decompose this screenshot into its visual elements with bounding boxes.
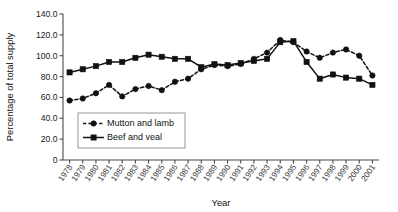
x-axis-tick-label: 2001 bbox=[359, 163, 377, 183]
data-point-marker bbox=[199, 65, 204, 70]
data-point-marker bbox=[93, 91, 98, 96]
data-point-marker bbox=[133, 55, 138, 60]
data-point-marker bbox=[278, 40, 283, 45]
data-point-marker bbox=[80, 96, 85, 101]
y-axis-tick-label: 20.0 bbox=[41, 134, 58, 144]
data-point-marker bbox=[106, 82, 111, 87]
y-axis-tick-label: 140.0 bbox=[36, 9, 58, 19]
data-point-marker bbox=[357, 53, 362, 58]
x-axis-title: Year bbox=[212, 197, 231, 208]
data-point-marker bbox=[172, 56, 177, 61]
series-1 bbox=[67, 37, 375, 103]
data-point-marker bbox=[159, 87, 164, 92]
y-axis-tick-label: 40.0 bbox=[41, 113, 58, 123]
data-point-marker bbox=[291, 39, 296, 44]
data-point-marker bbox=[330, 72, 335, 77]
data-point-marker bbox=[317, 55, 322, 60]
data-point-marker bbox=[238, 60, 243, 65]
data-point-marker bbox=[133, 86, 138, 91]
data-point-marker bbox=[185, 76, 190, 81]
data-point-marker bbox=[304, 49, 309, 54]
legend: Mutton and lambBeef and veal bbox=[78, 113, 185, 148]
y-axis-tick-label: 0 bbox=[53, 155, 58, 165]
y-axis-tick-label: 80.0 bbox=[41, 72, 58, 82]
data-point-marker bbox=[343, 47, 348, 52]
chart-canvas: 020.040.060.080.0100.0120.0140.0Percenta… bbox=[0, 0, 398, 212]
data-point-marker bbox=[80, 67, 85, 72]
data-point-marker bbox=[146, 83, 151, 88]
series-line bbox=[70, 41, 373, 85]
data-point-marker bbox=[370, 82, 375, 87]
legend-label: Mutton and lamb bbox=[107, 118, 174, 128]
legend-label: Beef and veal bbox=[107, 132, 162, 142]
data-point-marker bbox=[106, 59, 111, 64]
line-chart: 020.040.060.080.0100.0120.0140.0Percenta… bbox=[0, 0, 398, 212]
data-point-marker bbox=[120, 59, 125, 64]
data-point-marker bbox=[120, 94, 125, 99]
series-line bbox=[70, 40, 373, 100]
y-axis-tick-label: 60.0 bbox=[41, 92, 58, 102]
y-axis-tick-label: 120.0 bbox=[36, 30, 58, 40]
data-point-marker bbox=[172, 79, 177, 84]
data-point-marker bbox=[225, 63, 230, 68]
data-point-marker bbox=[159, 54, 164, 59]
data-point-marker bbox=[67, 70, 72, 75]
data-point-marker bbox=[317, 76, 322, 81]
data-point-marker bbox=[146, 52, 151, 57]
data-point-marker bbox=[264, 50, 269, 55]
data-point-marker bbox=[264, 56, 269, 61]
data-point-marker bbox=[67, 98, 72, 103]
data-point-marker bbox=[304, 59, 309, 64]
series-2 bbox=[67, 39, 375, 88]
data-point-marker bbox=[370, 73, 375, 78]
data-point-marker bbox=[212, 61, 217, 66]
data-point-marker bbox=[93, 64, 98, 69]
data-point-marker bbox=[343, 75, 348, 80]
data-point-marker bbox=[330, 50, 335, 55]
legend-swatch-marker bbox=[91, 135, 96, 140]
data-point-marker bbox=[185, 56, 190, 61]
y-axis-title: Percentage of total supply bbox=[4, 32, 15, 141]
legend-swatch-marker bbox=[91, 121, 96, 126]
x-axis: 1978197919801981198219831984198519861987… bbox=[57, 160, 379, 183]
data-point-marker bbox=[251, 58, 256, 63]
y-axis: 020.040.060.080.0100.0120.0140.0 bbox=[36, 9, 63, 165]
y-axis-tick-label: 100.0 bbox=[36, 51, 58, 61]
data-point-marker bbox=[357, 76, 362, 81]
